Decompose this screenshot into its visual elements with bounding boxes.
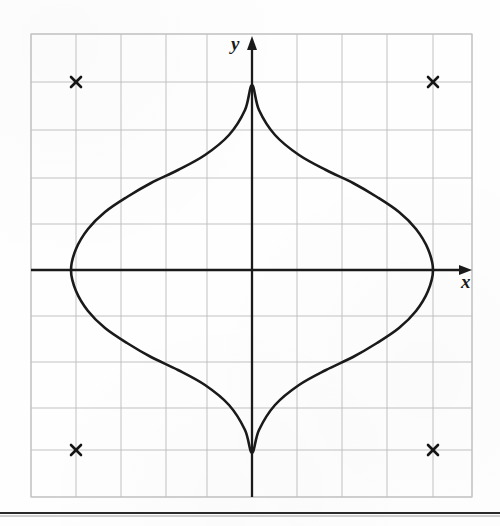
figure-container: x y — [0, 0, 500, 526]
x-axis-label: x — [460, 271, 471, 292]
y-axis-label: y — [229, 33, 240, 54]
astroid-figure: x y — [0, 0, 500, 526]
